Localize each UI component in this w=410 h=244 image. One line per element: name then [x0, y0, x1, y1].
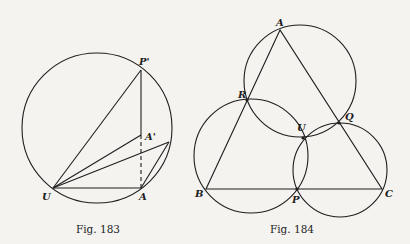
circle-CPQ [293, 123, 387, 217]
label-B: B [194, 188, 203, 199]
segment-A-X [141, 142, 169, 188]
segment-U-Aprime [53, 135, 141, 188]
circle-BPR [194, 99, 308, 213]
diagram-canvas: P' A' U A Fig. 183 A R Q U B P C Fig. 18… [0, 0, 410, 244]
label-Q: Q [345, 111, 354, 122]
label-U: U [42, 191, 52, 202]
figure-183: P' A' U A Fig. 183 [22, 53, 172, 235]
label-R: R [237, 89, 246, 100]
triangle-ABC [206, 30, 382, 189]
label-Aprime: A' [144, 131, 156, 142]
label-C: C [385, 188, 393, 199]
label-A: A [138, 191, 147, 202]
caption-fig-184: Fig. 184 [270, 223, 314, 235]
circle-ARQ [244, 25, 356, 137]
caption-fig-183: Fig. 183 [76, 223, 120, 235]
label-P: P [291, 194, 300, 205]
label-Pprime: P' [138, 56, 150, 67]
label-U: U [297, 122, 307, 133]
circumcircle [22, 53, 172, 203]
figure-184: A R Q U B P C Fig. 184 [194, 17, 393, 235]
label-A: A [275, 17, 284, 28]
